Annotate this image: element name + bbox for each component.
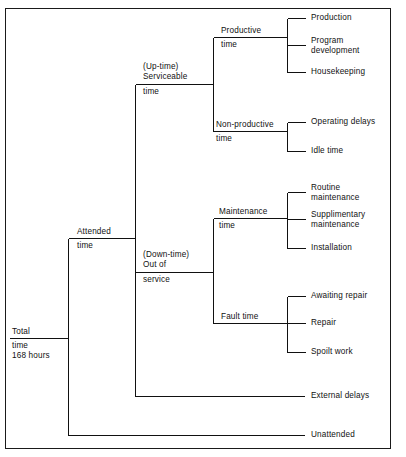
node-non-productive-label-above: Non-productive bbox=[216, 120, 274, 130]
node-maintenance-label-below: time bbox=[219, 221, 235, 231]
node-downtime-label-below: service bbox=[143, 275, 170, 285]
leaf-production: Production bbox=[311, 13, 352, 23]
leaf-unattended: Unattended bbox=[311, 430, 355, 440]
node-productive-label-below: time bbox=[221, 40, 237, 50]
node-productive-label-above: Productive bbox=[221, 26, 261, 36]
leaf-awaiting-repair: Awaiting repair bbox=[311, 291, 367, 301]
leaf-routine-maintenance-line2: maintenance bbox=[311, 193, 360, 203]
leaf-external-delays: External delays bbox=[311, 391, 369, 401]
leaf-operating-delays: Operating delays bbox=[311, 117, 375, 127]
diagram-page: Total time 168 hours Attended time (Up-t… bbox=[0, 0, 406, 457]
node-downtime-label-outof: Out of bbox=[143, 260, 166, 270]
leaf-routine-maintenance-line1: Routine bbox=[311, 183, 340, 193]
node-uptime-label-below: time bbox=[143, 87, 159, 97]
root-label-time: time bbox=[12, 341, 28, 351]
leaf-spoilt-work: Spoilt work bbox=[311, 347, 353, 357]
root-label-total: Total bbox=[12, 327, 30, 337]
node-attended-label-above: Attended bbox=[77, 227, 111, 237]
leaf-program-development-line2: development bbox=[311, 46, 360, 56]
leaf-supplimentary-maintenance-line1: Supplimentary bbox=[311, 210, 365, 220]
leaf-housekeeping: Housekeeping bbox=[311, 67, 365, 77]
root-label-hours: 168 hours bbox=[12, 351, 50, 361]
node-maintenance-label-above: Maintenance bbox=[219, 207, 268, 217]
node-fault-time-label: Fault time bbox=[221, 312, 258, 322]
leaf-supplimentary-maintenance-line2: maintenance bbox=[311, 220, 360, 230]
node-uptime-label-paren: (Up-time) bbox=[143, 62, 178, 72]
node-non-productive-label-below: time bbox=[216, 134, 232, 144]
leaf-idle-time: Idle time bbox=[311, 146, 343, 156]
leaf-program-development-line1: Program bbox=[311, 36, 343, 46]
node-attended-label-below: time bbox=[77, 241, 93, 251]
leaf-installation: Installation bbox=[311, 243, 352, 253]
node-uptime-label-serviceable: Serviceable bbox=[143, 72, 187, 82]
leaf-repair: Repair bbox=[311, 318, 336, 328]
node-downtime-label-paren: (Down-time) bbox=[143, 250, 189, 260]
